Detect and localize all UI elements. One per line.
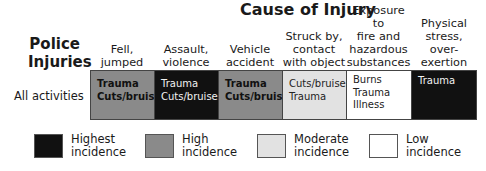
- cell-physical-stress: Trauma: [411, 70, 477, 120]
- column-header-line: hazardous: [346, 43, 411, 56]
- row-header-line: Police: [28, 35, 80, 53]
- column-header-line: Fell,: [101, 43, 144, 56]
- column-header-line: violence: [162, 56, 209, 69]
- column-header-exposure: Exposure to fire and hazardous substance…: [346, 17, 411, 69]
- legend-highest: Highest incidence: [34, 133, 126, 159]
- column-header-line: jumped: [101, 56, 144, 69]
- column-header-assault-violence: Assault, violence: [154, 17, 218, 69]
- cell-fell-jumped: Trauma Cuts/bruises: [90, 70, 155, 120]
- legend-label: Highest incidence: [71, 133, 126, 159]
- legend-line: incidence: [406, 146, 461, 159]
- row-header-title: Police Injuries: [28, 35, 80, 71]
- legend-line: incidence: [71, 146, 126, 159]
- column-header-line: exertion: [411, 56, 477, 69]
- cell-item: Trauma: [289, 91, 346, 104]
- legend-label: Moderate incidence: [294, 133, 349, 159]
- column-header-line: Assault,: [162, 43, 209, 56]
- cell-struck-by: Cuts/bruises Trauma: [282, 70, 347, 120]
- column-header-line: Struck by,: [283, 30, 345, 43]
- column-header-line: substances: [346, 56, 411, 69]
- legend-swatch-moderate: [257, 134, 286, 158]
- legend-swatch-high: [145, 134, 174, 158]
- cell-item: Trauma: [225, 78, 282, 91]
- legend-low: Low incidence: [369, 133, 461, 159]
- row-header-line: Injuries: [28, 53, 80, 71]
- cell-item: Burns: [353, 74, 411, 87]
- legend-high: High incidence: [145, 133, 237, 159]
- legend-moderate: Moderate incidence: [257, 133, 349, 159]
- cell-item: Cuts/bruises: [161, 91, 218, 104]
- legend-swatch-low: [369, 134, 398, 158]
- column-header-physical-stress: Physical stress, over- exertion: [411, 17, 477, 69]
- legend-line: incidence: [182, 146, 237, 159]
- cell-exposure: Burns Trauma Illness: [346, 70, 412, 120]
- legend-line: incidence: [294, 146, 349, 159]
- legend-swatch-highest: [34, 134, 63, 158]
- column-header-line: with object: [283, 56, 345, 69]
- legend-label: Low incidence: [406, 133, 461, 159]
- column-header-line: contact: [283, 43, 345, 56]
- cell-item: Cuts/bruises: [289, 78, 346, 91]
- row-label-all-activities: All activities: [14, 89, 84, 103]
- cell-item: Cuts/bruises: [97, 91, 154, 104]
- cell-item: Trauma: [97, 78, 154, 91]
- column-header-line: fire and: [346, 30, 411, 43]
- legend-label: High incidence: [182, 133, 237, 159]
- cell-item: Trauma: [161, 78, 218, 91]
- cell-item: Illness: [353, 99, 411, 112]
- column-header-struck-by: Struck by, contact with object: [282, 17, 346, 69]
- column-header-line: Exposure to: [346, 4, 411, 30]
- column-header-line: accident: [226, 56, 274, 69]
- cell-item: Trauma: [418, 75, 476, 88]
- column-header-line: Physical: [411, 17, 477, 30]
- cell-item: Trauma: [353, 87, 411, 100]
- column-header-line: stress, over-: [411, 30, 477, 56]
- column-header-fell-jumped: Fell, jumped: [90, 17, 154, 69]
- cell-vehicle-accident: Trauma Cuts/bruises: [218, 70, 283, 120]
- column-header-vehicle-accident: Vehicle accident: [218, 17, 282, 69]
- column-header-line: Vehicle: [226, 43, 274, 56]
- cell-assault-violence: Trauma Cuts/bruises: [154, 70, 219, 120]
- cell-item: Cuts/bruises: [225, 91, 282, 104]
